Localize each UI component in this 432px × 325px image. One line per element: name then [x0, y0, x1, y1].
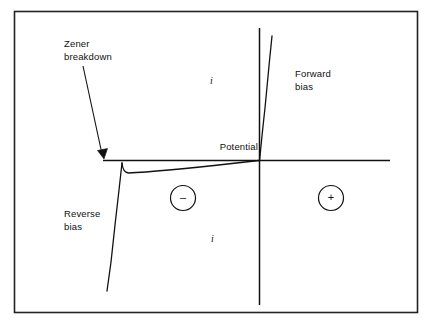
negative-polarity-sign: – [176, 191, 190, 203]
current-symbol-lower: i [211, 233, 214, 244]
diode-iv-characteristic-figure: Zener breakdown Forward bias Reverse bia… [0, 0, 432, 325]
zener-annotation-arrow-line [83, 66, 102, 154]
reverse-bias-label: Reverse bias [64, 208, 100, 233]
zener-breakdown-curve [107, 163, 122, 291]
forward-bias-label: Forward bias [295, 68, 331, 93]
zener-breakdown-label: Zener breakdown [64, 38, 112, 63]
forward-conduction-curve [260, 36, 273, 161]
positive-polarity-sign: + [324, 191, 338, 203]
current-symbol-upper: i [210, 75, 213, 86]
potential-axis-label: Potential [180, 141, 258, 154]
zener-annotation-arrowhead [98, 149, 108, 160]
reverse-leakage-curve [122, 161, 259, 174]
